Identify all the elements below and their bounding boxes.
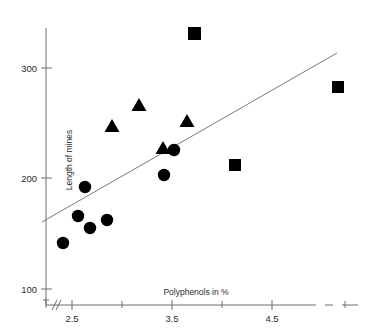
data-point-circle: [57, 237, 69, 249]
data-point-square: [229, 159, 241, 171]
series-squares: [188, 27, 344, 171]
data-point-circle: [72, 210, 84, 222]
data-point-circle: [168, 144, 180, 156]
data-point-circle: [84, 222, 96, 234]
data-point-circle: [158, 169, 170, 181]
x-axis-title: Polyphenols in %: [163, 287, 229, 297]
x-tick-label-4-5: 4.5: [265, 313, 278, 324]
series-circles: [57, 144, 180, 249]
x-tick-label-2-5: 2.5: [65, 313, 78, 324]
x-tick-label-3-5: 3.5: [165, 313, 178, 324]
y-axis-title: Length of mines: [64, 130, 74, 190]
scatter-plot: 300 200 100 2.5 3.5 4.5 Length of mines …: [0, 0, 369, 333]
data-point-circle: [101, 214, 113, 226]
y-tick-label-200: 200: [21, 173, 37, 184]
regression-line: [42, 53, 337, 222]
series-triangles: [105, 98, 195, 154]
data-point-triangle: [132, 98, 147, 111]
data-point-triangle: [105, 119, 120, 132]
data-point-triangle: [180, 114, 195, 127]
data-point-square: [188, 27, 201, 40]
data-point-triangle: [156, 141, 171, 154]
data-point-circle: [79, 181, 91, 193]
y-tick-label-300: 300: [21, 63, 37, 74]
plot-canvas: 300 200 100 2.5 3.5 4.5 Length of mines …: [0, 0, 369, 333]
data-point-square: [332, 81, 344, 93]
y-tick-label-100: 100: [21, 284, 37, 295]
